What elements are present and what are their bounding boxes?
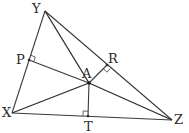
point-a	[87, 81, 91, 85]
segment-za	[89, 83, 172, 120]
label-t: T	[84, 119, 93, 133]
point-t	[87, 115, 90, 118]
label-y: Y	[31, 1, 41, 16]
perpendicular-ap	[29, 60, 89, 83]
label-p: P	[16, 52, 25, 67]
segment-xa	[12, 83, 89, 113]
label-r: R	[108, 51, 119, 66]
label-a: A	[81, 66, 92, 81]
point-p	[28, 59, 31, 62]
geometry-diagram: Y P A R X T Z	[0, 0, 189, 133]
label-z: Z	[174, 112, 183, 127]
perpendicular-ar	[89, 65, 107, 83]
right-angle-mark-r	[103, 68, 110, 72]
label-x: X	[2, 105, 12, 120]
